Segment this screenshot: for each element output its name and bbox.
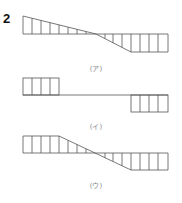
diagram-a-label: (ア)	[90, 63, 102, 73]
diagram-b	[23, 78, 168, 112]
shear-diagrams	[0, 0, 182, 203]
diagram-a	[23, 16, 168, 52]
diagram-c-label: (ウ)	[90, 180, 102, 190]
diagram-c	[23, 136, 168, 170]
diagram-b-label: (イ)	[90, 121, 102, 131]
